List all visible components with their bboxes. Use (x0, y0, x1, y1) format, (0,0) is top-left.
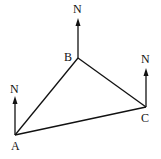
north-label-c: N (141, 52, 150, 66)
arrowhead-icon (76, 18, 81, 26)
north-arrow-a (13, 96, 18, 135)
bearing-diagram: N N N A B C (0, 0, 161, 159)
north-label-b: N (73, 2, 82, 16)
north-arrow-b (76, 18, 81, 58)
arrowhead-icon (144, 68, 149, 76)
arrowhead-icon (13, 96, 18, 104)
north-label-a: N (10, 82, 19, 96)
edge-bc (78, 58, 146, 107)
vertex-label-a: A (11, 139, 20, 153)
north-arrow-c (144, 68, 149, 107)
vertex-label-c: C (141, 111, 149, 125)
vertex-label-b: B (64, 50, 72, 64)
